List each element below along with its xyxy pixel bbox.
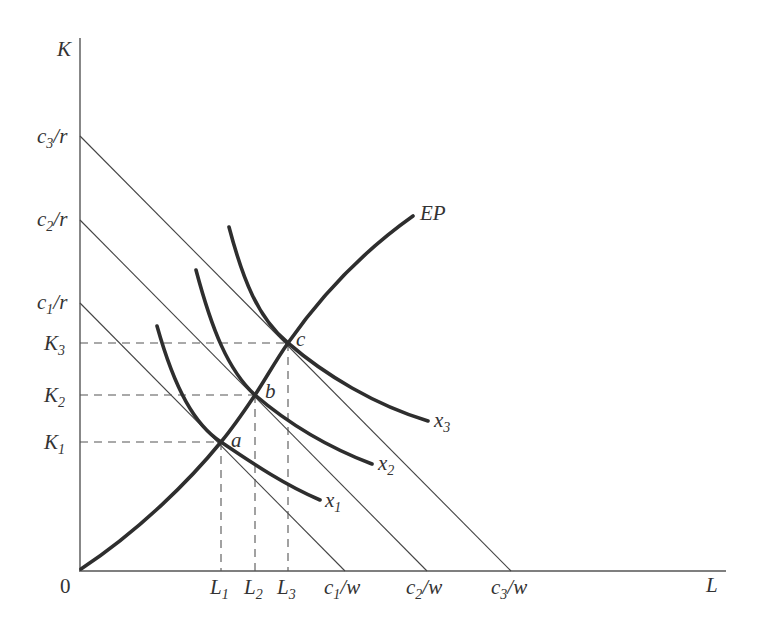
isoquant-label-x2: x2 [377,451,394,478]
k-level-k2: K2 [43,383,65,410]
y-axis-label: K [56,37,72,61]
y-intercept-c1r: c1/r [37,290,68,317]
point-label-c: c [296,327,306,351]
x-intercept-c1w: c1/w [324,575,360,602]
point-label-b: b [265,379,276,403]
isoquant-label-x1: x1 [324,488,341,515]
k-level-k1: K1 [43,430,65,457]
origin-label: 0 [60,574,71,598]
isoquant-x1 [157,326,320,500]
diagram-canvas: K L 0 c3/r c2/r c1/r K3 K2 K1 L1 L2 L3 c… [0,0,765,635]
x-intercept-c2w: c2/w [406,575,442,602]
isoquant-label-x3: x3 [433,408,450,435]
isoquant-x2 [196,270,372,464]
l-level-l2: L2 [243,575,263,602]
y-intercept-c3r: c3/r [37,124,68,151]
l-level-l3: L3 [276,575,296,602]
point-label-a: a [231,428,242,452]
l-level-l1: L1 [209,575,229,602]
y-intercept-c2r: c2/r [37,207,68,234]
k-level-k3: K3 [43,331,65,358]
expansion-path-label: EP [419,201,446,225]
x-axis-label: L [705,573,718,597]
isocost-line-c3 [80,136,511,571]
x-intercept-c3w: c3/w [491,575,527,602]
